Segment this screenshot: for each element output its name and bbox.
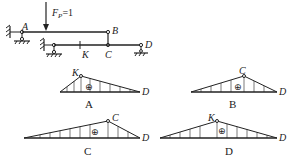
- peak-label: C: [239, 65, 246, 76]
- end-label: D: [278, 86, 287, 97]
- plus-sign-icon: ⊕: [234, 82, 242, 92]
- label-b: B: [112, 25, 118, 36]
- support-lower-left-icon: [40, 38, 62, 57]
- structure: A B C FP=1: [6, 2, 153, 60]
- influence-line-diagram: A B C FP=1: [0, 0, 295, 167]
- plus-sign-icon: ⊕: [91, 127, 99, 137]
- option-d: K D ⊕ D: [160, 112, 287, 157]
- load-arrow-icon: [43, 2, 49, 31]
- option-caption: C: [84, 145, 91, 157]
- peak-label: C: [112, 112, 119, 123]
- option-b: C D ⊕ B: [191, 65, 287, 110]
- option-caption: B: [229, 98, 236, 110]
- end-label: D: [278, 132, 287, 143]
- plus-sign-icon: ⊕: [218, 126, 226, 136]
- option-caption: A: [85, 98, 93, 110]
- option-a: K D ⊕ A: [60, 67, 150, 110]
- peak-label: K: [207, 112, 216, 123]
- load-label: FP=1: [51, 7, 73, 20]
- label-a: A: [21, 21, 29, 32]
- option-caption: D: [225, 145, 233, 157]
- label-k: K: [81, 49, 90, 60]
- label-d: D: [144, 39, 153, 50]
- peak-label: K: [71, 67, 80, 78]
- option-c: C D ⊕ C: [24, 112, 150, 157]
- end-label: D: [141, 132, 150, 143]
- label-c: C: [105, 49, 112, 60]
- end-label: D: [141, 86, 150, 97]
- plus-sign-icon: ⊕: [85, 82, 93, 92]
